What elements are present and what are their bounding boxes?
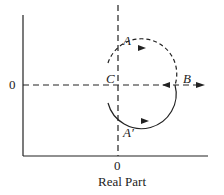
label-b: B	[183, 71, 191, 87]
arrow-left-icon	[162, 82, 170, 88]
arrow-right-icon	[196, 82, 205, 88]
label-a-prime: A′	[123, 125, 134, 141]
label-a: A	[123, 33, 131, 49]
nyquist-plot	[0, 0, 224, 195]
y-tick-zero: 0	[9, 77, 16, 93]
diagram: A C B A′ 0 0 Real Part	[0, 0, 224, 195]
arrow-top-icon	[138, 45, 146, 51]
label-c: C	[106, 71, 115, 87]
x-tick-zero: 0	[114, 158, 121, 174]
x-axis-label: Real Part	[98, 174, 146, 190]
arrow-bottom-icon	[141, 118, 149, 124]
